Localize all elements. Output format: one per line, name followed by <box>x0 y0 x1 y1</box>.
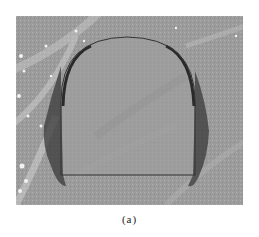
tunnel-opening <box>61 37 195 175</box>
tunnel-cross-section-plot <box>16 16 243 205</box>
panel-caption: (a) <box>0 213 259 225</box>
tunnel-figure <box>16 16 243 205</box>
